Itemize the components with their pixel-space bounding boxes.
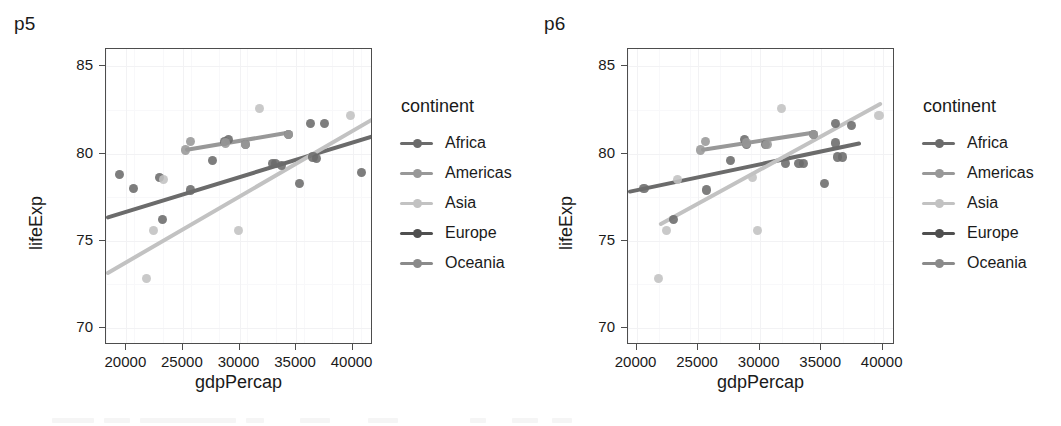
gridline-minor-x (134, 49, 135, 343)
legend-dot (413, 169, 422, 178)
legend-dot (413, 199, 422, 208)
y-tick (621, 153, 627, 154)
legend-label: Oceania (445, 254, 505, 272)
gridline-y (106, 328, 371, 329)
legend-item-asia[interactable]: Asia (400, 188, 512, 218)
plot-area-p5 (105, 48, 372, 344)
legend-key-icon (400, 254, 433, 272)
y-tick-label: 85 (39, 56, 93, 73)
data-point-africa (129, 184, 138, 193)
gridline-y (106, 241, 371, 242)
data-point-africa (115, 170, 124, 179)
legend-title-p5: continent (400, 96, 512, 117)
gridline-minor-x (163, 49, 164, 343)
data-point-africa (831, 138, 840, 147)
gridline-minor-x (813, 49, 814, 343)
legend-label: Africa (445, 134, 486, 152)
legend-p6: continent AfricaAmericasAsiaEuropeOceani… (922, 96, 1034, 278)
gridline-minor-x (690, 49, 691, 343)
legend-key-icon (400, 224, 433, 242)
x-axis-title-p5: gdpPercap (105, 372, 372, 393)
y-tick-label: 75 (561, 231, 615, 248)
data-point-africa (312, 154, 321, 163)
data-point-africa (186, 185, 195, 194)
legend-label: Europe (967, 224, 1019, 242)
x-axis-title-p6: gdpPercap (627, 372, 894, 393)
gridline-minor-x (191, 49, 192, 343)
data-point-americas (762, 140, 771, 149)
y-tick-label: 70 (39, 318, 93, 335)
data-point-asia (142, 274, 151, 283)
legend-item-europe[interactable]: Europe (400, 218, 512, 248)
legend-key-icon (400, 194, 433, 212)
y-tick (621, 240, 627, 241)
gridline-minor-x (332, 49, 333, 343)
legend-item-oceania[interactable]: Oceania (922, 248, 1034, 278)
y-tick (99, 65, 105, 66)
legend-label: Europe (445, 224, 497, 242)
y-tick (99, 327, 105, 328)
gridline-minor-x (720, 49, 721, 343)
legend-key-icon (922, 194, 955, 212)
data-point-americas (181, 145, 190, 154)
gridline-y (628, 66, 893, 67)
gridline-minor-x (276, 49, 277, 343)
x-tick (820, 344, 821, 350)
legend-key-icon (400, 134, 433, 152)
x-tick (239, 344, 240, 350)
gridline-x (296, 49, 297, 343)
legend-item-asia[interactable]: Asia (922, 188, 1034, 218)
legend-key-icon (922, 164, 955, 182)
data-point-asia (753, 226, 762, 235)
legend-item-oceania[interactable]: Oceania (400, 248, 512, 278)
legend-key-icon (922, 254, 955, 272)
data-point-africa (838, 152, 847, 161)
legend-item-africa[interactable]: Africa (922, 128, 1034, 158)
x-tick (295, 344, 296, 350)
y-tick (621, 65, 627, 66)
data-point-asia (255, 104, 264, 113)
legend-label: Asia (445, 194, 476, 212)
gridline-minor-x (304, 49, 305, 343)
gridline-y (106, 154, 371, 155)
legend-label: Americas (445, 164, 512, 182)
data-point-americas (696, 145, 705, 154)
legend-key-icon (922, 224, 955, 242)
data-point-africa (208, 156, 217, 165)
y-tick (99, 240, 105, 241)
y-tick-label: 85 (561, 56, 615, 73)
y-tick-label: 75 (39, 231, 93, 248)
legend-key-icon (400, 164, 433, 182)
gridline-minor-x (219, 49, 220, 343)
gridline-minor-x (751, 49, 752, 343)
gridline-x (126, 49, 127, 343)
data-point-africa (320, 119, 329, 128)
figure-canvas: p5 lifeExp gdpPercap 2000025000300003500… (0, 0, 1061, 426)
x-tick-label: 40000 (842, 353, 922, 370)
y-tick-label: 80 (39, 144, 93, 161)
data-point-americas (284, 130, 293, 139)
legend-dot (935, 259, 944, 268)
legend-item-americas[interactable]: Americas (400, 158, 512, 188)
x-tick (636, 344, 637, 350)
data-point-africa (295, 179, 304, 188)
x-tick (182, 344, 183, 350)
x-tick (352, 344, 353, 350)
x-tick (882, 344, 883, 350)
gridline-minor-y (106, 284, 371, 285)
data-point-asia (654, 274, 663, 283)
legend-p5: continent AfricaAmericasAsiaEuropeOceani… (400, 96, 512, 278)
legend-item-americas[interactable]: Americas (922, 158, 1034, 188)
y-tick (621, 327, 627, 328)
gridline-y (628, 154, 893, 155)
data-point-americas (742, 138, 751, 147)
legend-item-europe[interactable]: Europe (922, 218, 1034, 248)
gridline-x (698, 49, 699, 343)
clipped-next-figure (0, 414, 1061, 426)
data-point-americas (221, 138, 230, 147)
data-point-asia (662, 226, 671, 235)
gridline-minor-x (659, 49, 660, 343)
legend-item-africa[interactable]: Africa (400, 128, 512, 158)
data-point-asia (673, 175, 682, 184)
gridline-minor-x (106, 49, 107, 343)
